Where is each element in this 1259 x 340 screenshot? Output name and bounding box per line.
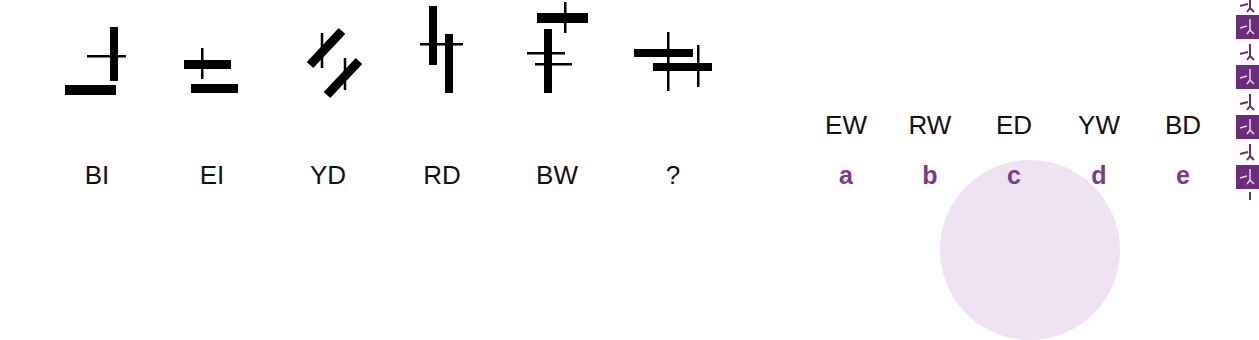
strip-tile bbox=[1236, 115, 1259, 139]
strip-tile bbox=[1236, 165, 1259, 189]
figure-motif-icon bbox=[1236, 115, 1259, 139]
option-code-c: ED bbox=[979, 110, 1049, 140]
option-code-a: EW bbox=[811, 110, 881, 140]
option-code-d: YW bbox=[1064, 110, 1134, 140]
figure-motif-icon bbox=[1236, 15, 1259, 39]
figure-motif-icon bbox=[1236, 40, 1259, 64]
option-code-e: BD bbox=[1148, 110, 1218, 140]
figure-label-unknown: ? bbox=[633, 160, 713, 190]
figure-label: BI bbox=[57, 160, 137, 190]
figure-label: EI bbox=[172, 160, 252, 190]
strip-tile bbox=[1236, 15, 1259, 39]
option-b[interactable]: b bbox=[895, 160, 965, 190]
option-d[interactable]: d bbox=[1064, 160, 1134, 190]
strip-tile bbox=[1236, 190, 1259, 214]
strip-tile bbox=[1236, 140, 1259, 164]
option-e[interactable]: e bbox=[1148, 160, 1218, 190]
figure-motif-icon bbox=[1236, 90, 1259, 114]
figure-motif-icon bbox=[1236, 165, 1259, 189]
figure-motif-icon bbox=[1236, 140, 1259, 164]
option-c[interactable]: c bbox=[979, 160, 1049, 190]
strip-tile bbox=[1236, 0, 1259, 16]
decorative-strip bbox=[1236, 0, 1259, 200]
figure-label: YD bbox=[288, 160, 368, 190]
option-code-b: RW bbox=[895, 110, 965, 140]
figure-label: BW bbox=[517, 160, 597, 190]
option-a[interactable]: a bbox=[811, 160, 881, 190]
figure-motif-icon bbox=[1236, 190, 1259, 214]
figure-label: RD bbox=[402, 160, 482, 190]
figure-motif-icon bbox=[1236, 0, 1259, 16]
strip-tile bbox=[1236, 40, 1259, 64]
figure-motif-icon bbox=[1236, 65, 1259, 89]
strip-tile bbox=[1236, 90, 1259, 114]
strip-tile bbox=[1236, 65, 1259, 89]
